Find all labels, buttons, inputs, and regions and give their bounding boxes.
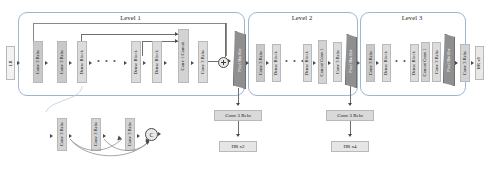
arrow-db-1 (69, 134, 72, 138)
arrow-l2-4 (328, 61, 331, 65)
hrx2-conv3relu-box: Conv 3 Relu (214, 110, 262, 121)
block-label: Concat Conv 1 (423, 48, 428, 76)
arrow-l1-3 (89, 61, 92, 65)
arrow-l1-4 (124, 61, 127, 65)
level3-block-dense-1: Dense Block (382, 44, 391, 82)
level3-pixel-shuffler: Pixel Shuffler (443, 34, 455, 86)
block-label: Conv 3 Relu (36, 50, 41, 74)
arrow-l1-1 (45, 61, 48, 65)
arrow-hrx2-out (236, 134, 240, 137)
block-label: Conv 3 Relu (463, 51, 468, 75)
block-label: Concat Conv 1 (320, 48, 325, 76)
level1-pixel-shuffler: Pixel Shuffler (233, 31, 246, 89)
arrow-l1-2 (69, 61, 72, 65)
block-label: Dense Block (155, 50, 160, 74)
input-lr-label: LR (8, 60, 13, 66)
level3-block-conv3relu-1: Conv 3 Relu (366, 44, 375, 82)
block-label: Conv 3 Relu (60, 123, 65, 147)
block-label: Conv 3 Relu (434, 50, 439, 74)
level1-block-conv3relu-1: Conv 3 Relu (33, 41, 43, 83)
level2-block-conv3relu-2: Conv 3 Relu (333, 42, 342, 82)
level2-block-concat-conv1: Concat Conv 1 (318, 40, 327, 84)
arrow-l1-7 (191, 61, 194, 65)
level1-block-conv3relu-3: Conv 3 Relu (198, 41, 208, 83)
level-1-title: Level 1 (18, 14, 243, 21)
level3-block-concat-conv1: Concat Conv 1 (421, 42, 430, 82)
level2-pixel-shuffler: Pixel Shuffler (345, 34, 357, 88)
input-lr-block: LR (6, 46, 15, 80)
level1-block-dense-3: Dense Block (152, 41, 162, 83)
arrow-tailconv-to-hrx8 (471, 61, 474, 65)
output-hr-x2-box: HR x2 (219, 141, 257, 152)
dense-detail-conv-2: Conv 3 Relu (91, 118, 101, 151)
output-label: HR x8 (477, 57, 482, 69)
arrow-l3-1 (376, 61, 379, 65)
arrow-shuffle1-to-level2 (246, 61, 249, 65)
arrow-db-3 (137, 134, 140, 138)
level-2-title: Level 2 (248, 14, 356, 21)
shuffle-label: Pixel Shuffler (447, 48, 451, 71)
block-label: Dense Block (384, 51, 389, 75)
level3-block-conv3relu-2: Conv 3 Relu (432, 42, 441, 82)
level2-block-dense-1: Dense Block (272, 44, 281, 82)
arrow-l2-3 (313, 61, 316, 65)
level1-block-conv3relu-2: Conv 3 Relu (57, 41, 67, 83)
block-label: Conv 3 Relu (60, 50, 65, 74)
block-label: Conv 1 Concat (181, 42, 186, 70)
block-label: Dense Block (412, 51, 417, 75)
level-1-skip-wire-3-drop (142, 41, 143, 56)
arrow-shuffle2-to-level3 (357, 61, 360, 65)
wire-hrx4-conv-to-out (350, 121, 351, 135)
block-label: Conv 3 Relu (368, 51, 373, 75)
block-label: Dense Block (134, 50, 139, 74)
shuffle-label: Pixel Shuffler (349, 49, 353, 72)
arrow-l1-6 (164, 61, 167, 65)
hrx4-conv3relu-box: Conv 3 Relu (326, 110, 374, 121)
dense-detail-conv-3: Conv 3 Relu (125, 118, 135, 151)
shuffle-label: Pixel Shuffler (237, 48, 241, 71)
level1-block-conv1-concat: Conv 1 Concat (178, 29, 189, 83)
output-hr-x4-box: HR x4 (331, 141, 369, 152)
block-label: Conv 3 Relu (335, 50, 340, 74)
level1-block-dense-1: Dense Block (77, 41, 87, 83)
arrow-shuffle3-to-tailconv (455, 61, 458, 65)
level-1-skip-wire-2 (81, 34, 178, 35)
level2-block-conv3relu-1: Conv 3 Relu (256, 44, 265, 82)
block-label: Dense Block (305, 51, 310, 75)
branch-wire-hrx2-down (238, 88, 239, 104)
arrow-l2-1 (266, 61, 269, 65)
wire-conv3-to-add (208, 61, 218, 62)
output-hr-x8-block: HR x8 (475, 46, 484, 80)
level1-block-dense-2: Dense Block (131, 41, 141, 83)
arrow-branch-hrx2 (236, 103, 240, 106)
arrow-db-in (50, 134, 53, 138)
arrow-lr-to-conv (17, 61, 20, 65)
level3-block-dense-2: Dense Block (410, 44, 419, 82)
arrow-add-to-shuffle (228, 59, 231, 63)
arrow-l1-5 (143, 61, 146, 65)
block-label: Conv 3 Relu (128, 123, 133, 147)
arrow-db-out (158, 132, 161, 136)
level2-block-dense-2: Dense Block (303, 44, 312, 82)
arrow-hrx4-out (348, 134, 352, 137)
level-3-title: Level 3 (360, 14, 464, 21)
level1-ellipsis: • • • (97, 58, 117, 66)
level3-tail-conv3relu: Conv 3 Relu (460, 44, 470, 82)
block-label: Dense Block (274, 51, 279, 75)
arrow-branch-hrx4 (348, 103, 352, 106)
branch-wire-hrx4-down (350, 86, 351, 104)
architecture-diagram: Level 1 Level 2 Level 3 LR Conv 3 Relu C… (0, 0, 486, 188)
block-label: Conv 3 Relu (201, 50, 206, 74)
level1-skip-into-add (225, 23, 226, 57)
dense-detail-concat-node: C (145, 128, 158, 141)
arrow-db-2 (103, 134, 106, 138)
wire-hrx2-conv-to-out (238, 121, 239, 135)
block-label: Conv 3 Relu (94, 123, 99, 147)
dense-detail-conv-1: Conv 3 Relu (57, 118, 67, 151)
block-label: Conv 3 Relu (258, 51, 263, 75)
block-label: Dense Block (80, 50, 85, 74)
